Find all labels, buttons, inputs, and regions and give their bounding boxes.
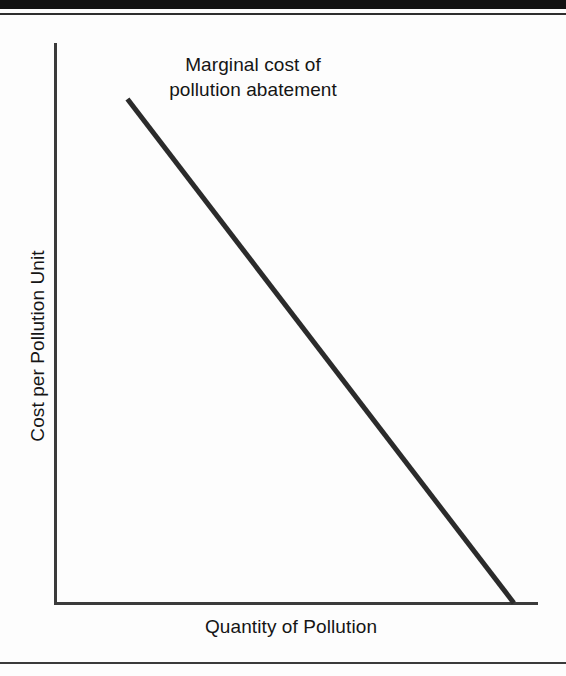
- plot-area: Marginal cost of pollution abatement Cos…: [0, 0, 566, 676]
- curve-annotation-line1: Marginal cost of: [185, 54, 321, 75]
- curve-annotation-line2: pollution abatement: [118, 77, 388, 102]
- x-axis-line: [54, 602, 538, 605]
- x-axis-label: Quantity of Pollution: [121, 616, 461, 638]
- figure-page: Marginal cost of pollution abatement Cos…: [0, 0, 566, 676]
- y-axis-label: Cost per Pollution Unit: [25, 231, 51, 461]
- curve-annotation: Marginal cost of pollution abatement: [118, 52, 388, 102]
- y-axis-label-wrap: Cost per Pollution Unit: [25, 231, 51, 461]
- bottom-horizontal-rule: [0, 662, 566, 664]
- y-axis-line: [54, 43, 57, 605]
